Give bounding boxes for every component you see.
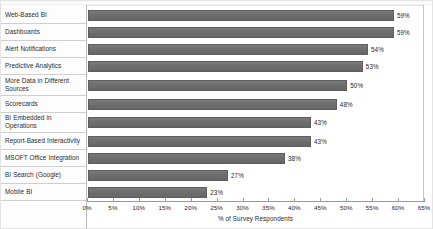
category-label-text: MSOFT Office Integration (5, 154, 79, 162)
category-label-text: Scorecards (5, 100, 38, 108)
bar (88, 117, 311, 128)
bar (88, 136, 311, 147)
bar-row: 59% (88, 10, 410, 21)
category-label-cell: Report-Based Interactivity (0, 133, 86, 150)
x-axis-tick (372, 198, 373, 202)
category-label-cell: Scorecards (0, 96, 86, 113)
category-label-text: More Data in DifferentSources (5, 77, 69, 93)
bar (88, 27, 394, 38)
x-axis-line (87, 201, 424, 202)
bar-row: 43% (88, 136, 327, 147)
bar-row: 23% (88, 187, 223, 198)
bar-row: 48% (88, 99, 353, 110)
category-label-cell: BI Embedded inOperations (0, 113, 86, 134)
category-label-cell: MSOFT Office Integration (0, 150, 86, 167)
bar-value-label: 59% (397, 12, 410, 19)
bar (88, 99, 337, 110)
category-label-text: Mobile BI (5, 188, 32, 196)
x-axis-tick (268, 198, 269, 202)
bar (88, 10, 394, 21)
plot-right-border (423, 5, 424, 201)
x-axis-tick-label: 10% (133, 204, 146, 211)
category-label-text: BI Search (Google) (5, 171, 61, 179)
x-axis-tick (398, 198, 399, 202)
bar-value-label: 54% (371, 46, 384, 53)
bar-value-label: 27% (231, 172, 244, 179)
category-label-text: Alert Notifications (5, 45, 56, 53)
bar-value-label: 23% (210, 189, 223, 196)
category-label-cell: More Data in DifferentSources (0, 75, 86, 96)
bar-value-label: 50% (350, 82, 363, 89)
bar-value-label: 38% (288, 155, 301, 162)
bar-row: 50% (88, 80, 363, 91)
x-axis-tick-label: 65% (418, 204, 431, 211)
clipped-top-text (4, 0, 84, 4)
x-axis-tick-label: 5% (108, 204, 117, 211)
x-axis-tick (113, 198, 114, 202)
x-axis-title: % of Survey Respondents (87, 215, 424, 222)
bar-value-label: 59% (397, 29, 410, 36)
category-label-cell: BI Search (Google) (0, 167, 86, 184)
bar-value-label: 53% (366, 63, 379, 70)
x-axis-tick-label: 50% (340, 204, 353, 211)
category-label-cell-empty (0, 201, 86, 229)
x-axis-tick-label: 45% (314, 204, 327, 211)
bar-row: 54% (88, 44, 384, 55)
bar (88, 44, 368, 55)
category-label-text: Web-Based BI (5, 11, 47, 19)
category-label-text: Predictive Analytics (5, 62, 61, 70)
bar-value-label: 43% (314, 138, 327, 145)
x-axis-tick-label: 55% (366, 204, 379, 211)
x-axis-tick (87, 198, 88, 202)
x-axis-tick-label: 15% (158, 204, 171, 211)
category-label-column: Web-Based BIDashboardsAlert Notification… (0, 5, 87, 229)
plot-top-border (87, 5, 424, 6)
bar-value-label: 43% (314, 119, 327, 126)
x-axis-tick (424, 198, 425, 202)
bar-chart: Web-Based BIDashboardsAlert Notification… (0, 0, 433, 229)
x-axis-tick-label: 20% (184, 204, 197, 211)
category-label-cell: Dashboards (0, 24, 86, 41)
x-axis-tick (191, 198, 192, 202)
bar-row: 38% (88, 153, 301, 164)
x-axis-tick-label: 30% (236, 204, 249, 211)
x-axis-tick-label: 40% (288, 204, 301, 211)
category-label-cell: Mobile BI (0, 184, 86, 201)
bar-row: 53% (88, 61, 379, 72)
bar (88, 61, 363, 72)
plot-area: % of Survey Respondents 59%59%54%53%50%4… (87, 5, 433, 229)
category-label-cell: Predictive Analytics (0, 58, 86, 75)
category-label-text: BI Embedded inOperations (5, 114, 52, 130)
bar (88, 187, 207, 198)
category-label-text: Dashboards (5, 28, 40, 36)
category-label-cell: Web-Based BI (0, 7, 86, 24)
x-axis-tick (165, 198, 166, 202)
x-axis-tick (217, 198, 218, 202)
x-axis-tick (320, 198, 321, 202)
bar (88, 153, 285, 164)
x-axis-tick-label: 0% (82, 204, 91, 211)
x-axis-tick (139, 198, 140, 202)
bar (88, 170, 228, 181)
x-axis-tick-label: 60% (392, 204, 405, 211)
bar-row: 59% (88, 27, 410, 38)
x-axis-tick-label: 35% (262, 204, 275, 211)
bar (88, 80, 347, 91)
bar-row: 43% (88, 117, 327, 128)
x-axis-tick (346, 198, 347, 202)
x-axis-tick (294, 198, 295, 202)
x-axis-tick-label: 25% (210, 204, 223, 211)
bar-value-label: 48% (340, 101, 353, 108)
category-label-text: Report-Based Interactivity (5, 137, 80, 145)
category-label-cell: Alert Notifications (0, 41, 86, 58)
x-axis-tick (243, 198, 244, 202)
bar-row: 27% (88, 170, 244, 181)
